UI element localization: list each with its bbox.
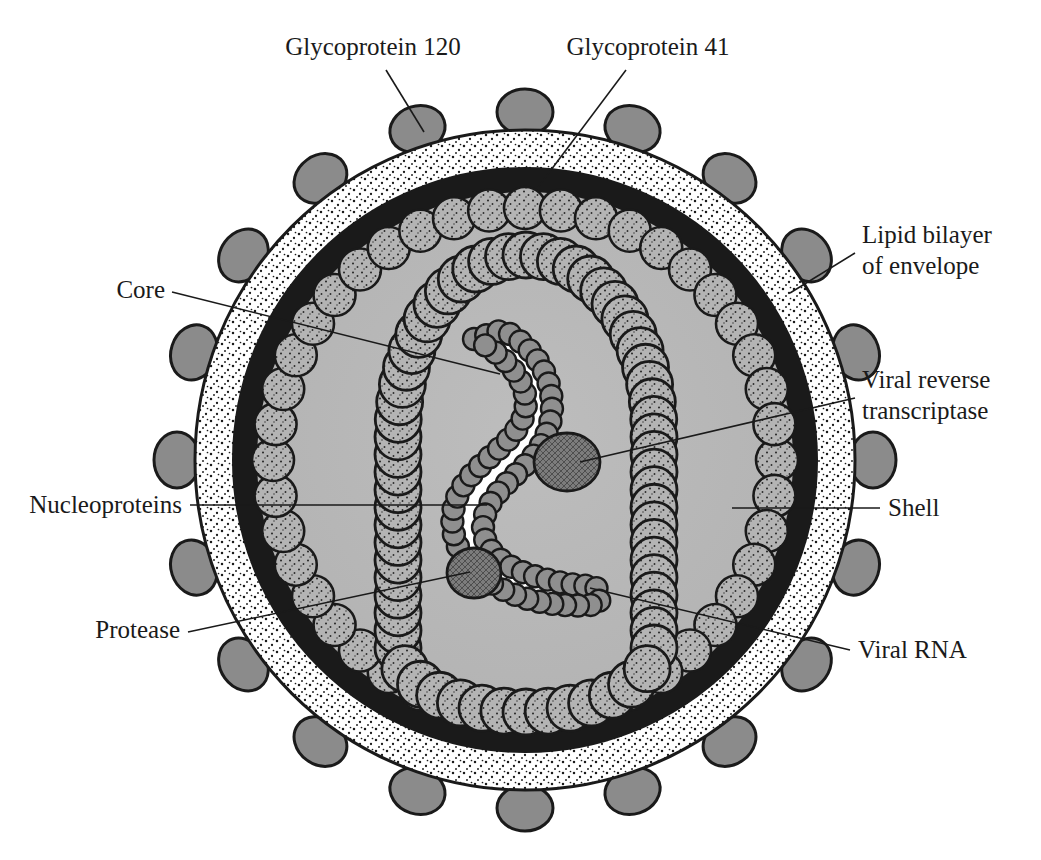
gp120-knob[interactable]	[154, 432, 200, 488]
label-glycoprotein-41: Glycoprotein 41	[566, 33, 729, 60]
gp120-knob[interactable]	[497, 89, 553, 135]
shell-bead	[753, 403, 795, 445]
gp120-knob[interactable]	[497, 785, 553, 831]
label-nucleoproteins: Nucleoproteins	[29, 491, 182, 518]
label-protease: Protease	[95, 616, 180, 643]
label-viral-reverse-transcriptase: Viral reversetranscriptase	[862, 366, 990, 424]
core-wall-bead	[624, 646, 670, 692]
reverse-transcriptase-body	[534, 433, 600, 491]
label-lipid-bilayer-of-envelope: Lipid bilayerof envelope	[862, 221, 992, 279]
label-viral-rna: Viral RNA	[858, 636, 967, 663]
nucleoprotein-bead	[474, 334, 496, 356]
virion-figure: Glycoprotein 120Glycoprotein 41Lipid bil…	[0, 0, 1041, 860]
protease-body	[447, 548, 501, 598]
label-core: Core	[116, 276, 165, 303]
label-shell: Shell	[888, 494, 939, 521]
gp120-knob[interactable]	[850, 432, 896, 488]
label-glycoprotein-120: Glycoprotein 120	[285, 33, 461, 60]
hiv-virion-diagram: Glycoprotein 120Glycoprotein 41Lipid bil…	[0, 0, 1041, 860]
